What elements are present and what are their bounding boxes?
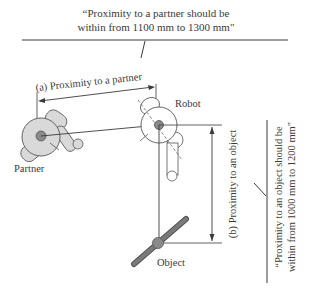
robot-arm-lower [167, 143, 178, 175]
partner-proximity-callout: “Proximity to a partner should be within… [22, 7, 288, 58]
object-label: Object [157, 257, 185, 268]
partner-figure: Partner [14, 107, 83, 174]
callout-object-leader [254, 183, 266, 196]
callout-partner-line2: within from 1100 mm to 1300 mm" [78, 21, 235, 33]
proximity-diagram: “Proximity to a partner should be within… [0, 0, 312, 294]
dimension-b-label: (b) Proximity to an object [227, 130, 239, 239]
arrow-down-icon [210, 234, 215, 241]
callout-object-line2: within from 1000 mm to 1200 mm" [286, 122, 297, 272]
callout-object-line1: “Proximity to an object should be [273, 126, 284, 268]
callout-partner-leader [141, 41, 145, 58]
partner-hand [73, 139, 83, 149]
object-center [153, 238, 164, 249]
arrow-up-icon [210, 127, 215, 134]
robot-hand [167, 171, 177, 181]
robot-label: Robot [175, 98, 201, 109]
robot-figure: Robot [137, 94, 200, 181]
object-figure: Object [134, 219, 186, 268]
object-proximity-callout: “Proximity to an object should be within… [254, 120, 297, 283]
callout-partner-line1: “Proximity to a partner should be [83, 7, 230, 19]
arrow-right-icon [148, 85, 155, 90]
partner-label: Partner [14, 163, 45, 174]
arrow-left-icon [38, 98, 45, 103]
